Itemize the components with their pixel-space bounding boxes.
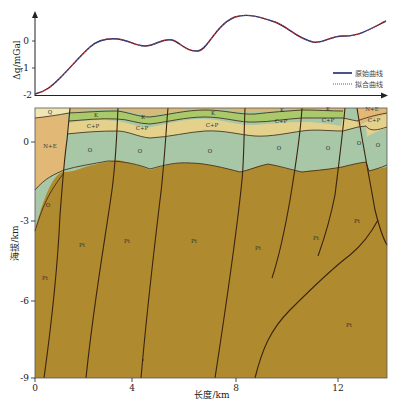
label-o-5: O [326,145,331,151]
sample-dot [142,359,144,361]
x-axis-arrow-icon [381,93,388,99]
section-x-label: 长度/km [194,389,229,400]
y-tick-2: -2 [23,90,32,100]
legend-original-label: 原始曲线 [355,69,383,78]
label-q: Q [48,109,53,115]
label-o-6: O [357,140,362,146]
label-cp-3: C+P [206,122,219,128]
label-pt-1: Pt [42,275,49,281]
gravity-y-label: Δg/mGal [12,40,22,79]
fitted-curve [35,15,386,94]
legend: 原始曲线 拟合曲线 [333,69,383,89]
label-pt-6: Pt [313,235,320,241]
dist-tick-8: 8 [233,383,239,393]
depth-tick-9: -9 [20,373,29,383]
label-pt-4: Pt [191,238,198,244]
dist-tick-12: 12 [332,383,343,393]
label-pt-3: Pt [124,238,131,244]
label-cp-1: C+P [87,123,100,129]
section-y-label: 海拔/km [9,225,20,260]
label-pt-8: Pt [346,322,353,328]
legend-fitted-label: 拟合曲线 [355,80,383,89]
label-o-2: O [138,148,143,154]
label-pt-5: Pt [255,245,262,251]
depth-tick-3: -3 [20,216,29,226]
label-pt-2: Pt [79,242,86,248]
y-tick-0: 0 [23,36,29,46]
label-o-1: O [88,147,93,153]
y-axis-arrow-icon [32,11,38,18]
original-curve [35,15,386,94]
label-ne-right: N+E [365,106,378,112]
depth-tick-6: -6 [20,296,29,306]
gravity-chart: 0 -1 -2 Δg/mGal 原始曲线 拟合曲线 [12,11,388,100]
label-o-3: O [208,148,213,154]
label-cp-4: C+P [275,118,288,124]
label-ne-left: N+E [43,143,56,149]
label-o-4: O [277,145,282,151]
label-cp-right: C+P [368,117,381,123]
dist-tick-0: 0 [32,383,38,393]
geologic-section: Q N+E O K C+P O K C+P O K C+P O K C+P O … [9,106,387,400]
gravity-profile-figure: 0 -1 -2 Δg/mGal 原始曲线 拟合曲线 [0,0,396,411]
label-cp-5: C+P [322,117,335,123]
depth-tick-0: 0 [23,137,29,147]
label-o-left: O [46,202,51,208]
label-o-right: O [376,142,381,148]
dist-tick-4: 4 [129,383,135,393]
label-pt-7: Pt [354,218,361,224]
label-cp-2: C+P [136,125,149,131]
